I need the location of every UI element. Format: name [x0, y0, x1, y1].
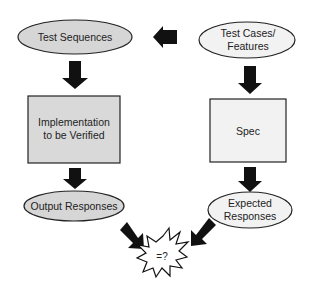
arrow-down-icon: [62, 61, 88, 89]
expected-responses-label: Expected Responses: [208, 195, 292, 225]
expected-responses-text-line2: Responses: [224, 210, 277, 223]
test-cases-label: Test Cases/ Features: [200, 24, 296, 56]
arrow-down-icon: [238, 66, 262, 94]
implementation-label: Implementation to be Verified: [28, 112, 120, 146]
spec-text: Spec: [236, 125, 260, 138]
expected-responses-text-line1: Expected: [228, 197, 272, 210]
arrow-down-icon: [63, 168, 87, 189]
arrow-down-icon: [238, 167, 262, 192]
implementation-text-line2: to be Verified: [43, 129, 104, 142]
output-responses-label: Output Responses: [24, 197, 124, 215]
arrow-left-icon: [153, 26, 177, 48]
compare-text: =?: [156, 250, 167, 263]
test-cases-text-line2: Features: [227, 40, 268, 53]
spec-label: Spec: [210, 122, 286, 140]
test-sequences-label: Test Sequences: [18, 28, 132, 46]
test-cases-text-line1: Test Cases/: [221, 27, 276, 40]
implementation-text-line1: Implementation: [38, 116, 110, 129]
compare-label: =?: [150, 249, 174, 263]
test-sequences-text: Test Sequences: [38, 31, 113, 44]
output-responses-text: Output Responses: [31, 200, 118, 213]
